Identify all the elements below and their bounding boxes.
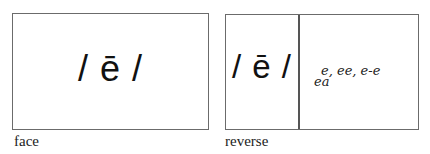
reverse-phoneme-label: / ē / (226, 48, 298, 86)
face-caption: face (14, 133, 39, 150)
spellings-line-1: e, ee, e-e (321, 63, 380, 78)
face-phoneme-label: / ē / (13, 48, 208, 90)
flashcard-reverse: / ē / e, ee, e-e ea (225, 14, 419, 130)
flashcard-face: / ē / (12, 13, 209, 130)
card-divider (298, 15, 300, 129)
spellings-line-2: ea (314, 74, 329, 89)
reverse-caption: reverse (225, 133, 268, 150)
